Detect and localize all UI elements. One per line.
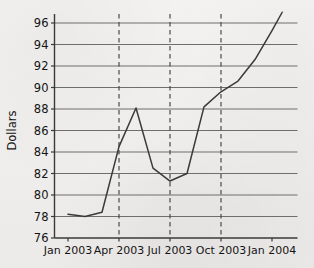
y-tick-label: 90 <box>34 81 49 95</box>
x-axis-tick-labels: Jan 2003Apr 2003Jul 2003Oct 2003Jan 2004 <box>43 244 296 257</box>
y-tick-label: 92 <box>34 59 49 73</box>
y-tick-label: 76 <box>34 231 49 245</box>
y-tick-label: 80 <box>34 188 49 202</box>
line-chart: 7678808284868890929496 Jan 2003Apr 2003J… <box>0 0 314 268</box>
y-tick-label: 82 <box>34 167 49 181</box>
y-axis-tick-labels: 7678808284868890929496 <box>34 16 55 245</box>
y-axis-title-text: Dollars <box>5 110 19 150</box>
y-tick-label: 84 <box>34 145 49 159</box>
x-tick-label: Jan 2004 <box>247 244 296 257</box>
y-axis-title: Dollars <box>5 110 19 150</box>
y-tick-label: 78 <box>34 210 49 224</box>
data-series-line <box>68 12 282 216</box>
axes <box>55 14 298 238</box>
series-line-dollars <box>68 12 282 216</box>
x-tick-label: Jul 2003 <box>147 244 193 257</box>
gridlines <box>55 23 298 217</box>
y-tick-label: 94 <box>34 38 49 52</box>
vertical-dashed-markers <box>119 14 221 238</box>
x-tick-label: Jan 2003 <box>43 244 92 257</box>
x-tick-label: Oct 2003 <box>196 244 247 257</box>
y-tick-label: 96 <box>34 16 49 30</box>
x-tick-label: Apr 2003 <box>94 244 145 257</box>
y-tick-label: 86 <box>34 124 49 138</box>
y-tick-label: 88 <box>34 102 49 116</box>
